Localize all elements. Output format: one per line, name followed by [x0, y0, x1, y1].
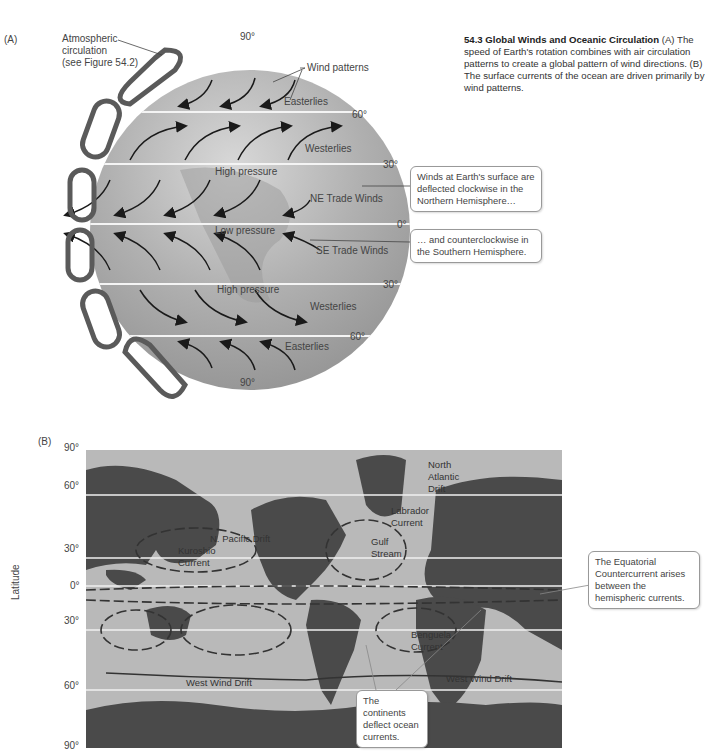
labrador-current: Labrador: [391, 505, 429, 516]
callout-north: Winds at Earth's surface are deflected c…: [410, 166, 542, 212]
svg-text:Current: Current: [178, 557, 210, 568]
lat-90-bottom: 90°: [240, 377, 255, 388]
svg-text:Atlantic: Atlantic: [428, 471, 459, 482]
high-pressure-s: High pressure: [217, 284, 280, 295]
lat-90-top: 90°: [240, 31, 255, 42]
svg-text:Current: Current: [391, 517, 423, 528]
svg-text:Stream: Stream: [371, 548, 402, 559]
wind-patterns-label: Wind patterns: [307, 62, 369, 73]
lat-60-n: 60°: [352, 109, 367, 120]
west-wind-drift-left: West Wind Drift: [186, 677, 252, 688]
lat-30-s: 30°: [383, 279, 398, 290]
westerlies-n: Westerlies: [305, 143, 352, 154]
tick-0: 0°: [70, 580, 80, 592]
lat-0: 0°: [397, 219, 407, 230]
ocean-map: North Atlantic Drift Labrador Current Gu…: [86, 450, 562, 748]
low-pressure: Low pressure: [215, 225, 275, 236]
west-wind-drift-right: West Wind Drift: [446, 673, 512, 684]
caption-number: 54.3: [464, 34, 483, 45]
panel-b-label: (B): [38, 436, 51, 447]
easterlies-n: Easterlies: [284, 96, 328, 107]
svg-text:Drift: Drift: [428, 483, 446, 494]
tick-60-s: 60°: [64, 680, 79, 692]
high-pressure-n: High pressure: [215, 166, 278, 177]
callout-south: … and counterclockwise in the Southern H…: [410, 229, 542, 263]
tick-90-n: 90°: [64, 442, 79, 454]
tick-90-s: 90°: [64, 740, 79, 752]
tick-60-n: 60°: [64, 480, 79, 492]
equatorial-leader: [540, 580, 590, 600]
latitude-axis-label: Latitude: [10, 564, 22, 600]
lat-60-s: 60°: [350, 331, 365, 342]
north-atlantic-drift: North: [428, 459, 451, 470]
caption-title: Global Winds and Oceanic Circulation: [485, 34, 659, 45]
easterlies-s: Easterlies: [285, 341, 329, 352]
tick-30-n: 30°: [64, 543, 79, 555]
se-trade-winds: SE Trade Winds: [316, 245, 388, 256]
tick-30-s: 30°: [64, 615, 79, 627]
benguela-current: Benguela: [411, 629, 452, 640]
callout-continents: The continents deflect ocean currents.: [356, 690, 428, 748]
westerlies-s: Westerlies: [310, 301, 357, 312]
kuroshio-current: Kuroshio: [178, 545, 216, 556]
lat-30-n: 30°: [383, 159, 398, 170]
callout-equatorial: The Equatorial Countercurrent arises bet…: [588, 551, 700, 609]
gulf-stream: Gulf: [371, 536, 389, 547]
figure-caption: 54.3 Global Winds and Oceanic Circulatio…: [464, 34, 719, 94]
n-pacific-drift: N. Pacific Drift: [210, 533, 271, 544]
ne-trade-winds: NE Trade Winds: [310, 193, 383, 204]
